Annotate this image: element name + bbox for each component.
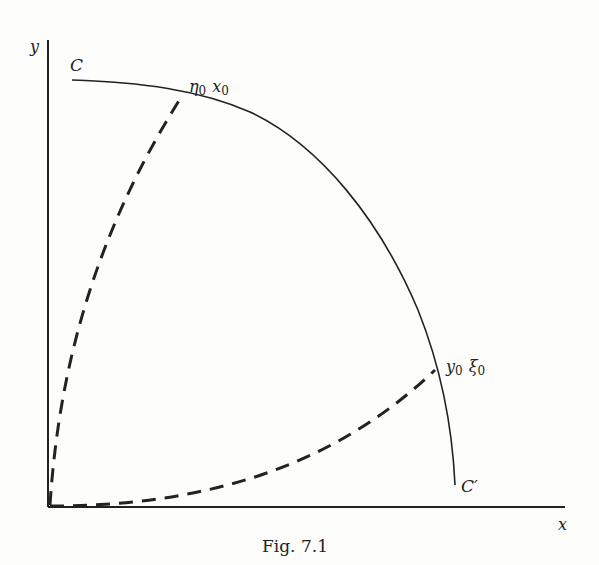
y-axis-label: y bbox=[29, 37, 40, 56]
dashed-curve-upper bbox=[50, 96, 182, 505]
x-axis-label: x bbox=[558, 515, 567, 534]
point-label-upper: η0x0 bbox=[189, 77, 229, 98]
dashed-curve-lower bbox=[50, 370, 435, 506]
svg-text:η0x0: η0x0 bbox=[189, 77, 229, 98]
figure-page: y x C C′ η0x0 y0ξ0 Fig. 7.1 bbox=[0, 0, 599, 565]
curve-end-label: C′ bbox=[461, 476, 478, 496]
figure-diagram: y x C C′ η0x0 y0ξ0 Fig. 7.1 bbox=[0, 0, 599, 565]
curve-start-label: C bbox=[70, 55, 83, 75]
point-label-lower: y0ξ0 bbox=[445, 357, 485, 378]
figure-caption: Fig. 7.1 bbox=[262, 536, 328, 556]
curve-c bbox=[72, 80, 455, 485]
svg-text:y0ξ0: y0ξ0 bbox=[445, 357, 485, 378]
